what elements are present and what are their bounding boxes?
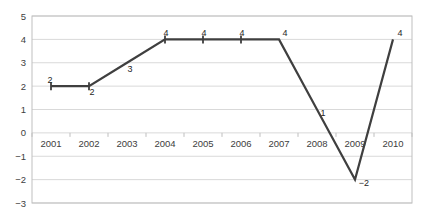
y-tick-label--2: −2 [15,174,26,185]
data-label-2009: −2 [359,178,369,188]
data-label-2005: 4 [201,28,206,38]
y-tick-label-2: 2 [21,81,26,92]
data-label-2010: 4 [397,28,402,38]
data-label-2008: 1 [320,108,325,118]
y-tick-label-5: 5 [21,11,26,22]
data-label-2004: 4 [163,28,168,38]
y-tick-label-3: 3 [21,57,26,68]
y-tick-label-1: 1 [21,104,26,115]
data-label-2001: 2 [47,75,52,85]
x-tick-label-2009: 2009 [344,138,365,149]
x-tick-label-2001: 2001 [40,138,61,149]
y-tick-label--1: −1 [15,151,26,162]
data-label-2002: 2 [89,87,94,97]
x-tick-label-2004: 2004 [154,138,175,149]
x-tick-label-2003: 2003 [116,138,137,149]
x-tick-label-2007: 2007 [268,138,289,149]
x-tick-label-2008: 2008 [306,138,327,149]
data-label-2007: 4 [282,28,287,38]
chart-canvas: 543210−1−2−3 200120022003200420052006200… [0,0,422,221]
y-tick-label-4: 4 [21,34,26,45]
chart-background [0,0,422,221]
x-tick-label-2006: 2006 [230,138,251,149]
x-tick-label-2002: 2002 [78,138,99,149]
line-chart: 543210−1−2−3 200120022003200420052006200… [0,0,422,221]
data-label-2006: 4 [239,28,244,38]
x-tick-label-2005: 2005 [192,138,213,149]
x-tick-label-2010: 2010 [382,138,403,149]
data-label-2003: 3 [127,64,132,74]
y-tick-label-0: 0 [21,127,26,138]
y-tick-label--3: −3 [15,198,26,209]
